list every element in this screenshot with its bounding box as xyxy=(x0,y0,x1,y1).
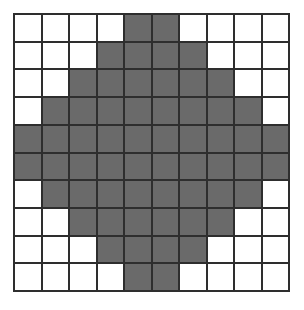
grid-cell-r9-c9 xyxy=(235,237,261,263)
grid-cell-r2-c10 xyxy=(263,43,289,69)
grid-cell-r2-c2 xyxy=(43,43,69,69)
grid-cell-r8-c4 xyxy=(98,209,124,235)
grid-cell-r10-c3 xyxy=(70,264,96,290)
grid-cell-r5-c1 xyxy=(15,126,41,152)
grid-cell-r5-c6 xyxy=(153,126,179,152)
grid-cell-r5-c5 xyxy=(125,126,151,152)
grid-cell-r7-c9 xyxy=(235,181,261,207)
grid-cell-r1-c4 xyxy=(98,15,124,41)
grid-cell-r6-c4 xyxy=(98,154,124,180)
grid-cell-r9-c6 xyxy=(153,237,179,263)
grid-cell-r1-c9 xyxy=(235,15,261,41)
grid-cell-r6-c1 xyxy=(15,154,41,180)
grid-cell-r4-c10 xyxy=(263,98,289,124)
grid-cell-r10-c2 xyxy=(43,264,69,290)
grid-cell-r1-c3 xyxy=(70,15,96,41)
grid-cell-r9-c2 xyxy=(43,237,69,263)
grid-cell-r3-c7 xyxy=(180,70,206,96)
grid-cell-r4-c1 xyxy=(15,98,41,124)
grid-cell-r2-c7 xyxy=(180,43,206,69)
grid-cell-r10-c8 xyxy=(208,264,234,290)
grid-cell-r8-c5 xyxy=(125,209,151,235)
grid-cell-r3-c10 xyxy=(263,70,289,96)
grid-cell-r8-c10 xyxy=(263,209,289,235)
grid-cell-r7-c10 xyxy=(263,181,289,207)
grid-cell-r2-c8 xyxy=(208,43,234,69)
grid-cell-r3-c3 xyxy=(70,70,96,96)
grid-cell-r5-c8 xyxy=(208,126,234,152)
grid-cell-r3-c5 xyxy=(125,70,151,96)
grid-cell-r8-c3 xyxy=(70,209,96,235)
grid-cell-r4-c8 xyxy=(208,98,234,124)
grid-cell-r5-c10 xyxy=(263,126,289,152)
grid-cell-r9-c7 xyxy=(180,237,206,263)
grid-cell-r1-c10 xyxy=(263,15,289,41)
grid-cell-r3-c6 xyxy=(153,70,179,96)
grid-cell-r1-c8 xyxy=(208,15,234,41)
grid-cell-r1-c6 xyxy=(153,15,179,41)
grid-cell-r7-c2 xyxy=(43,181,69,207)
grid-cell-r9-c10 xyxy=(263,237,289,263)
grid-table xyxy=(15,15,288,290)
grid-cell-r10-c6 xyxy=(153,264,179,290)
grid-cell-r9-c8 xyxy=(208,237,234,263)
grid-cell-r6-c6 xyxy=(153,154,179,180)
grid-cell-r10-c7 xyxy=(180,264,206,290)
grid-cell-r3-c4 xyxy=(98,70,124,96)
grid-cell-r7-c6 xyxy=(153,181,179,207)
grid-cell-r10-c5 xyxy=(125,264,151,290)
grid-cell-r8-c7 xyxy=(180,209,206,235)
grid-cell-r4-c9 xyxy=(235,98,261,124)
grid-cell-r10-c9 xyxy=(235,264,261,290)
grid-cell-r8-c6 xyxy=(153,209,179,235)
grid-cell-r6-c3 xyxy=(70,154,96,180)
grid-cell-r7-c4 xyxy=(98,181,124,207)
grid-cell-r4-c7 xyxy=(180,98,206,124)
grid-cell-r6-c5 xyxy=(125,154,151,180)
grid-cell-r6-c10 xyxy=(263,154,289,180)
grid-cell-r5-c7 xyxy=(180,126,206,152)
grid-cell-r2-c4 xyxy=(98,43,124,69)
grid-cell-r2-c9 xyxy=(235,43,261,69)
grid-cell-r4-c6 xyxy=(153,98,179,124)
grid-cell-r4-c5 xyxy=(125,98,151,124)
grid-cell-r1-c7 xyxy=(180,15,206,41)
grid-cell-r7-c5 xyxy=(125,181,151,207)
grid-cell-r8-c9 xyxy=(235,209,261,235)
grid-cell-r10-c1 xyxy=(15,264,41,290)
grid-cell-r8-c1 xyxy=(15,209,41,235)
grid-cell-r5-c2 xyxy=(43,126,69,152)
grid-cell-r1-c5 xyxy=(125,15,151,41)
grid-cell-r9-c4 xyxy=(98,237,124,263)
grid-cell-r10-c10 xyxy=(263,264,289,290)
grid-cell-r6-c8 xyxy=(208,154,234,180)
grid-cell-r10-c4 xyxy=(98,264,124,290)
grid-cell-r1-c1 xyxy=(15,15,41,41)
grid-cell-r5-c4 xyxy=(98,126,124,152)
grid-cell-r7-c3 xyxy=(70,181,96,207)
grid-cell-r8-c8 xyxy=(208,209,234,235)
grid-cell-r6-c2 xyxy=(43,154,69,180)
grid-cell-r6-c7 xyxy=(180,154,206,180)
grid-cell-r2-c1 xyxy=(15,43,41,69)
grid-cell-r2-c5 xyxy=(125,43,151,69)
grid-cell-r2-c6 xyxy=(153,43,179,69)
grid-cell-r3-c2 xyxy=(43,70,69,96)
grid-cell-r9-c1 xyxy=(15,237,41,263)
grid-cell-r4-c4 xyxy=(98,98,124,124)
grid-cell-r3-c1 xyxy=(15,70,41,96)
grid-cell-r4-c3 xyxy=(70,98,96,124)
grid-cell-r7-c7 xyxy=(180,181,206,207)
grid-cell-r8-c2 xyxy=(43,209,69,235)
grid-cell-r2-c3 xyxy=(70,43,96,69)
grid-cell-r9-c3 xyxy=(70,237,96,263)
grid-cell-r6-c9 xyxy=(235,154,261,180)
grid-cell-r1-c2 xyxy=(43,15,69,41)
grid-cell-r4-c2 xyxy=(43,98,69,124)
grid-cell-r5-c3 xyxy=(70,126,96,152)
grid-cell-r5-c9 xyxy=(235,126,261,152)
grid-cell-r3-c8 xyxy=(208,70,234,96)
pixelated-circle-figure xyxy=(13,13,290,292)
grid-cell-r7-c8 xyxy=(208,181,234,207)
grid-cell-r9-c5 xyxy=(125,237,151,263)
